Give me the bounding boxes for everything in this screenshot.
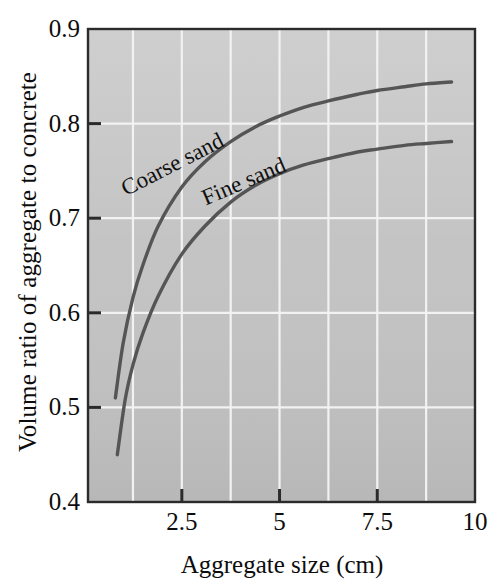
x-axis-tick-label: 7.5 xyxy=(362,509,393,534)
plot-background-shading xyxy=(88,29,475,502)
x-axis-tick-label: 5 xyxy=(273,509,286,534)
x-axis-title: Aggregate size (cm) xyxy=(88,551,476,579)
plot-area: Coarse sandFine sand xyxy=(0,0,498,584)
chart-figure: Volume ratio of aggregate to concrete 0.… xyxy=(0,0,498,584)
x-axis-tick-labels: 2.557.510 xyxy=(0,509,498,541)
x-axis-tick-label: 2.5 xyxy=(166,509,197,534)
x-axis-tick-label: 10 xyxy=(463,509,488,534)
